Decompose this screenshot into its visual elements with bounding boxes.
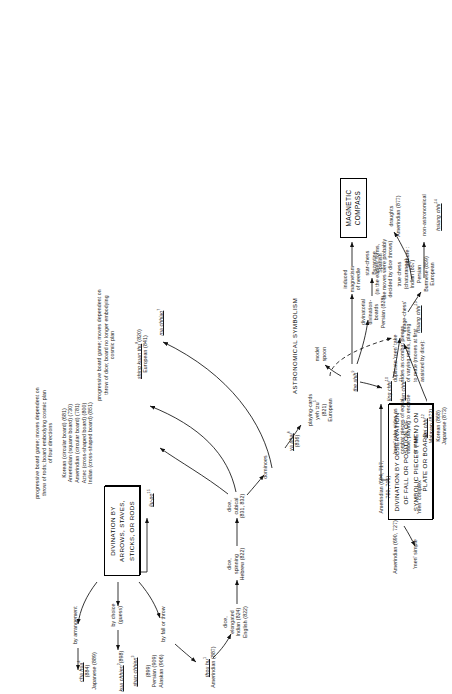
kua-chhien-term: kua chhien (117, 665, 123, 691)
ya-phai-sup: 6 (287, 431, 292, 433)
liu-po-term: liu-po (147, 493, 153, 506)
node-dice-elongated: dice, elongated Indian (824) English (82… (222, 602, 249, 642)
shan-chhien-sup: 3 (131, 655, 136, 657)
node-wei-chhi: wei chhi12 Malayan (872) Korean (868) Ja… (414, 404, 452, 448)
node-by-fall-or-throw: by fall or throw (160, 598, 167, 650)
node-draughts: draughts Amerindian (877) (388, 192, 401, 240)
node-capture: capture : (404, 244, 411, 270)
non-astro-label: non-astronomical (421, 194, 427, 235)
kua-chhien-sup: 2 (117, 663, 122, 665)
thou-hu-sup: 1 (203, 657, 208, 659)
node-liu-po-description: progressive board game; moves dependent … (34, 368, 94, 518)
magnetic-compass-box: MAGNETIC COMPASS (340, 178, 367, 238)
arrows-title-text: DIVINATION BY ARROWS, STAVES, STICKS, OR… (109, 500, 135, 562)
arrows-title-box: DIVINATION BY ARROWS, STAVES, STICKS, OR… (104, 486, 140, 576)
shan-chhien-sub: (899) Persian (909) Alaskan (906) (145, 648, 165, 694)
image-chess-term-line: hsiang chhi13 (407, 292, 421, 342)
magnetic-compass-text: MAGNETIC COMPASS (345, 190, 361, 227)
cha-hua-sup: 4 (77, 660, 82, 662)
shan-chhien-term: shan chhien (131, 658, 137, 687)
node-dice-cubical: dice, cubical (831, 832) (226, 490, 246, 522)
node-by-arrangement: by arrangement (72, 602, 79, 648)
node-induced-magnetism: induced magnetism of needle (342, 262, 362, 296)
shan-chhien-line: shan chhien3 (124, 648, 138, 694)
ling-chhi-term: ling chhi (385, 381, 391, 401)
node-amerindian-690: Amerindian (690, 727) (392, 518, 399, 576)
node-shing-kuan-thu: shing kuan thu8(820) European (841) (128, 306, 149, 402)
node-earliest-forms: (in the earliest forms, the moves were p… (374, 236, 394, 302)
node-amerindian-694: Amerindian (694, 717, 750, 701) (378, 458, 391, 516)
non-astro-sup: 14 (434, 199, 439, 203)
node-playing-cards: playing-cards yeh tzu5 (821) European (300, 388, 341, 432)
ma-chhiao-term: ma chhiao (157, 311, 163, 336)
non-astro-term-line: hsiang chhi14 (427, 184, 441, 246)
non-astro-term: hsiang chhi (435, 203, 441, 230)
node-true-chess: true chess (chaturanga) Indian (857) Per… (396, 252, 436, 296)
node-image-chess: 'image-chess' hsiang chhi13 (394, 292, 428, 342)
node-kua-chhien: kua chhien2(898) shan chhien3 (899) Pers… (110, 648, 171, 694)
node-dice-spinning: dice, spinning Hebrew (822) (226, 544, 246, 584)
node-by-choice: by choice (guess) (110, 598, 123, 632)
node-ma-chhiao: ma chhiao7 (150, 296, 164, 348)
wei-chhi-sub: Malayan (872) Korean (868) Japanese (873… (428, 404, 448, 448)
node-shing-kuan-thu-description: progressive board game; moves dependent … (96, 270, 116, 420)
ling-chhi-sup: 10 (385, 377, 390, 381)
node-the-shih: the shih9 (344, 364, 358, 398)
node-model-spoon: model spoon (314, 340, 327, 368)
the-shih-term: the shih (351, 373, 357, 392)
shing-kuan-thu-sup: 8 (135, 342, 140, 344)
the-shih-sup: 9 (351, 370, 356, 372)
playing-cards-sub: (821) European (321, 388, 334, 432)
thou-hu-term: thou hu (203, 659, 209, 677)
ma-chhiao-sup: 7 (157, 309, 162, 311)
shing-kuan-thu-term: shing kuan thu (135, 344, 141, 379)
thou-hu-sub: Amerindian (887) (210, 644, 217, 690)
wei-chhi-sup: 12 (421, 414, 426, 418)
image-chess-label: 'image-chess' (401, 301, 407, 334)
playing-cards-term: playing-cards yeh tzu (307, 394, 320, 426)
node-cha-hua: cha hua4 (884) Japanese (889) (70, 648, 104, 694)
playing-cards-sup: 5 (313, 400, 318, 402)
ya-phai-term: ya phai (287, 433, 293, 450)
cha-hua-sub: (884) Japanese (889) (84, 648, 97, 694)
cha-hua-term: cha hua (77, 662, 83, 681)
image-chess-sup: 13 (414, 301, 419, 305)
liu-po-sup: 15 (147, 489, 152, 493)
node-men-complex: 'men' complex (416, 476, 423, 518)
node-thou-hu: thou hu1 Amerindian (887) (196, 644, 223, 690)
wei-chhi-term: wei chhi (421, 418, 427, 438)
node-men-simple: 'men' simple (412, 534, 419, 574)
node-liu-po: liu-po15 (140, 478, 154, 518)
kua-chhien-sub: (898) (117, 651, 123, 664)
node-dominoes: dominoes (262, 450, 269, 484)
node-non-astronomical-hsiang-chhi: non-astronomical hsiang chhi14 (414, 184, 448, 246)
image-chess-term: hsiang chhi (415, 305, 421, 332)
section-label: ASTRONOMICAL SYMBOLISM (292, 298, 298, 394)
